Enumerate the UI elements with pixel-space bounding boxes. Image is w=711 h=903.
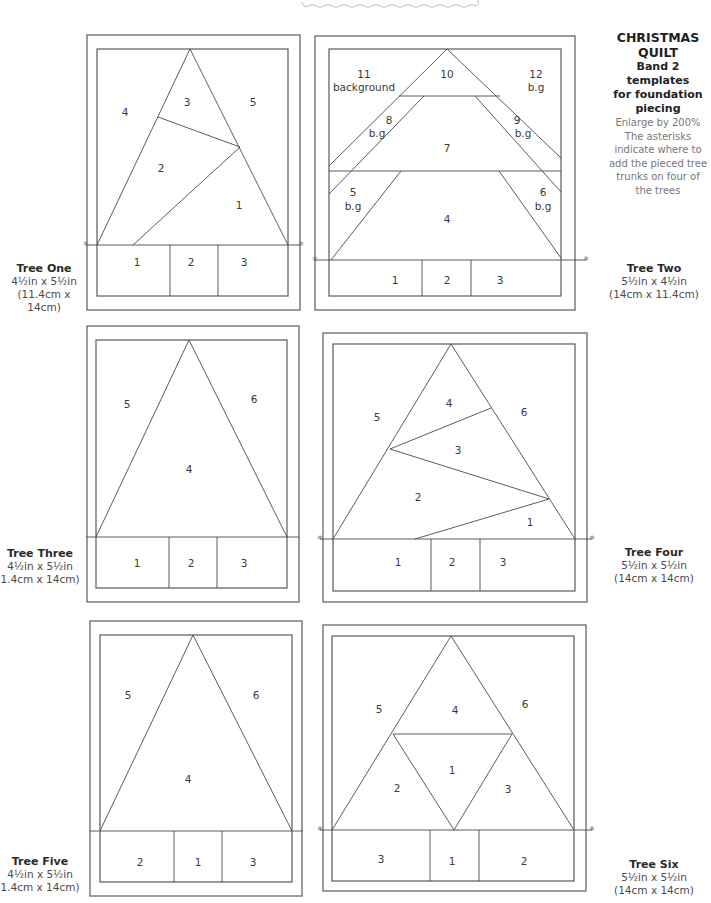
instruction-text: Enlarge by 200% xyxy=(606,116,710,130)
trunk-label: 3 xyxy=(241,557,248,569)
piece-label: 2 xyxy=(158,162,165,174)
asterisk-icon: * xyxy=(83,239,89,252)
piece-label: 12 xyxy=(529,68,542,80)
trunk-label: 2 xyxy=(444,274,451,286)
piece-label: 5 xyxy=(350,186,357,198)
piece-label: background xyxy=(333,81,395,93)
page-title: QUILT xyxy=(606,45,710,60)
tree-four-caption: Tree Four 5½in x 5½in (14cm x 14cm) xyxy=(606,546,702,585)
trunk-label: 1 xyxy=(392,274,399,286)
instruction-text: add the pieced tree xyxy=(606,157,710,171)
piece-label: 5 xyxy=(250,96,257,108)
piece-label: 8 xyxy=(386,114,393,126)
tree-three-template: 5 6 4 1 2 3 xyxy=(86,326,299,602)
piece-label: 5 xyxy=(124,398,131,410)
asterisk-icon: * xyxy=(298,239,304,252)
piece-label: 5 xyxy=(374,411,381,423)
trunk-label: 1 xyxy=(134,256,141,268)
tree-two-template: 11 background 10 12 b.g 8 b.g 9 b.g 7 5 … xyxy=(312,36,589,310)
piece-label: 2 xyxy=(415,491,422,503)
instruction-text: trunks on four of xyxy=(606,170,710,184)
trunk-label: 2 xyxy=(137,856,144,868)
piece-label: 6 xyxy=(521,406,528,418)
piece-label: 3 xyxy=(455,444,462,456)
piece-label: 4 xyxy=(185,773,192,785)
piece-label: b.g xyxy=(345,200,362,212)
asterisk-icon: * xyxy=(589,533,595,546)
piece-label: 6 xyxy=(253,689,260,701)
trunk-label: 2 xyxy=(521,855,528,867)
templates-canvas: 4 3 5 2 1 1 2 3 * * 11 background 10 12 … xyxy=(0,0,711,903)
tree-six-template: 5 4 6 1 2 3 3 1 2 * * xyxy=(317,625,595,891)
trunk-label: 3 xyxy=(500,556,507,568)
piece-label: 5 xyxy=(376,703,383,715)
asterisk-icon: * xyxy=(317,533,323,546)
piece-label: 10 xyxy=(440,68,453,80)
piece-label: b.g xyxy=(369,127,386,139)
piece-label: 6 xyxy=(522,698,529,710)
instruction-text: indicate where to xyxy=(606,143,710,157)
trunk-label: 1 xyxy=(195,856,202,868)
info-panel: CHRISTMAS QUILT Band 2 templates for fou… xyxy=(606,30,710,197)
subtitle: piecing xyxy=(606,102,710,116)
tree-one-caption: Tree One 4½in x 5½in (11.4cm x 14cm) xyxy=(4,262,84,314)
asterisk-icon: * xyxy=(312,254,318,267)
trunk-label: 3 xyxy=(378,853,385,865)
piece-label: 4 xyxy=(452,704,459,716)
subtitle: Band 2 templates xyxy=(606,60,710,88)
tree-five-template: 5 6 4 2 1 3 xyxy=(90,621,303,896)
piece-label: 2 xyxy=(394,782,401,794)
piece-label: b.g xyxy=(528,81,545,93)
tree-one-template: 4 3 5 2 1 1 2 3 * * xyxy=(83,35,304,310)
piece-label: 9 xyxy=(514,114,521,126)
piece-label: 4 xyxy=(122,106,129,118)
asterisk-icon: * xyxy=(583,254,589,267)
page-title: CHRISTMAS xyxy=(606,30,710,45)
piece-label: 6 xyxy=(251,393,258,405)
asterisk-icon: * xyxy=(317,824,323,837)
piece-label: 1 xyxy=(449,764,456,776)
piece-label: b.g xyxy=(515,127,532,139)
tree-six-caption: Tree Six 5½in x 5½in (14cm x 14cm) xyxy=(604,858,704,897)
trunk-label: 2 xyxy=(449,556,456,568)
tree-four-template: 4 5 6 3 2 1 1 2 3 * * xyxy=(317,333,595,602)
trunk-label: 2 xyxy=(188,256,195,268)
instruction-text: The asterisks xyxy=(606,130,710,144)
instruction-text: the trees xyxy=(606,184,710,198)
piece-label: 5 xyxy=(125,689,132,701)
piece-label: 6 xyxy=(540,186,547,198)
asterisk-icon: * xyxy=(589,824,595,837)
piece-label: b.g xyxy=(535,200,552,212)
piece-label: 1 xyxy=(527,516,534,528)
piece-label: 1 xyxy=(236,199,243,211)
piece-label: 4 xyxy=(186,463,193,475)
tree-three-caption: Tree Three 4½in x 5½in 1.4cm x 14cm) xyxy=(0,547,80,586)
trunk-label: 1 xyxy=(449,855,456,867)
trunk-label: 3 xyxy=(241,256,248,268)
trunk-label: 2 xyxy=(188,557,195,569)
piece-label: 7 xyxy=(444,142,451,154)
trunk-label: 3 xyxy=(250,856,257,868)
piece-label: 4 xyxy=(446,397,453,409)
piece-label: 3 xyxy=(505,783,512,795)
piece-label: 3 xyxy=(184,96,191,108)
trunk-label: 1 xyxy=(395,556,402,568)
tree-two-caption: Tree Two 5½in x 4½in (14cm x 11.4cm) xyxy=(604,262,704,301)
trunk-label: 3 xyxy=(497,274,504,286)
subtitle: for foundation xyxy=(606,88,710,102)
tree-five-caption: Tree Five 4½in x 5½in 1.4cm x 14cm) xyxy=(0,855,80,894)
trunk-label: 1 xyxy=(134,557,141,569)
piece-label: 11 xyxy=(357,68,370,80)
piece-label: 4 xyxy=(444,213,451,225)
